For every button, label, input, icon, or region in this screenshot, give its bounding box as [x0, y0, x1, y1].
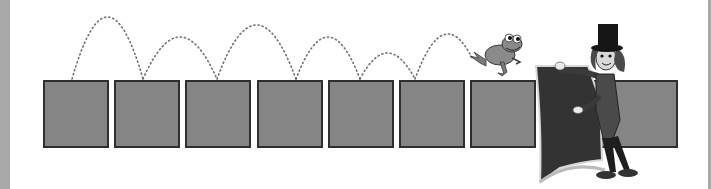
magician-icon — [0, 0, 711, 189]
